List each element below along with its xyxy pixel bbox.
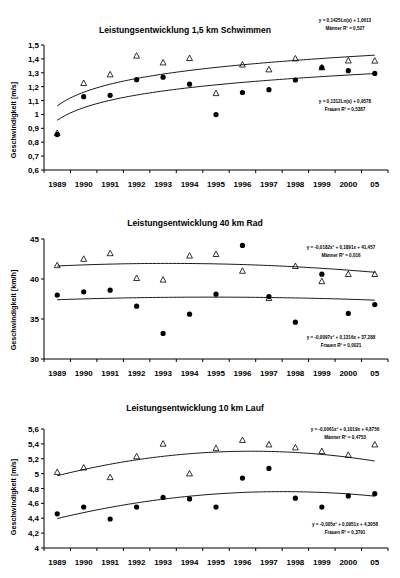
data-point-maenner bbox=[345, 57, 351, 63]
data-point-frauen bbox=[187, 496, 192, 501]
x-tick-label: 1996 bbox=[234, 369, 252, 378]
y-tick-label: 0,7 bbox=[28, 152, 40, 161]
data-point-maenner bbox=[187, 470, 193, 476]
x-tick-label: 1995 bbox=[207, 558, 225, 567]
y-tick-label: 40 bbox=[30, 275, 39, 284]
x-tick-label: 1996 bbox=[234, 558, 252, 567]
x-tick-label: 1993 bbox=[154, 558, 172, 567]
data-point-frauen bbox=[55, 292, 60, 297]
data-point-maenner bbox=[213, 445, 219, 451]
data-point-frauen bbox=[81, 94, 86, 99]
chart-lauf: Leistungsentwicklung 10 km Lauf Geschwin… bbox=[0, 387, 400, 578]
data-point-frauen bbox=[55, 132, 60, 137]
plot-area: 44,24,44,64,855,25,45,619891990199119921… bbox=[28, 425, 388, 567]
y-tick-label: 5 bbox=[35, 470, 40, 479]
data-point-maenner bbox=[266, 66, 272, 72]
data-point-frauen bbox=[240, 90, 245, 95]
data-point-maenner bbox=[160, 277, 166, 283]
data-point-maenner bbox=[107, 71, 113, 77]
x-tick-label: 1998 bbox=[286, 369, 304, 378]
annotation-maenner-line1: y = -0,0182x² + 0,1891x + 41,457 bbox=[307, 245, 376, 250]
trendline-männer bbox=[57, 451, 375, 476]
x-tick-label: 1993 bbox=[154, 180, 172, 189]
data-point-maenner bbox=[292, 263, 298, 269]
data-point-frauen bbox=[134, 504, 139, 509]
x-tick-label: 1998 bbox=[286, 180, 304, 189]
data-point-frauen bbox=[346, 68, 351, 73]
data-point-frauen bbox=[293, 496, 298, 501]
x-tick-label: 1997 bbox=[260, 180, 278, 189]
x-tick-label: 1991 bbox=[101, 180, 119, 189]
y-tick-label: 45 bbox=[30, 235, 39, 244]
data-point-frauen bbox=[160, 331, 165, 336]
data-point-frauen bbox=[372, 71, 377, 76]
data-point-frauen bbox=[187, 82, 192, 87]
chart-schwimmen: Leistungsentwicklung 1,5 km Schwimmen Ge… bbox=[0, 0, 400, 200]
trendline-frauen bbox=[57, 297, 375, 300]
data-point-maenner bbox=[319, 448, 325, 454]
data-point-frauen bbox=[213, 112, 218, 117]
data-point-frauen bbox=[372, 302, 377, 307]
data-point-maenner bbox=[372, 441, 378, 447]
y-tick-label: 1,5 bbox=[28, 41, 40, 50]
data-point-frauen bbox=[160, 495, 165, 500]
chart-lauf-svg: Leistungsentwicklung 10 km Lauf Geschwin… bbox=[0, 387, 400, 578]
x-tick-label: 1992 bbox=[128, 180, 146, 189]
data-point-maenner bbox=[240, 437, 246, 443]
data-point-frauen bbox=[346, 493, 351, 498]
data-point-maenner bbox=[345, 271, 351, 277]
y-tick-label: 4,6 bbox=[28, 499, 40, 508]
data-point-maenner bbox=[54, 469, 60, 475]
data-point-maenner bbox=[213, 90, 219, 96]
data-point-maenner bbox=[187, 55, 193, 61]
data-point-maenner bbox=[372, 58, 378, 64]
y-tick-label: 1,3 bbox=[28, 69, 40, 78]
data-point-maenner bbox=[292, 444, 298, 450]
data-point-frauen bbox=[266, 466, 271, 471]
x-tick-label: 1999 bbox=[313, 180, 331, 189]
x-tick-label: 1995 bbox=[207, 180, 225, 189]
chart-title: Leistungsentwicklung 40 km Rad bbox=[127, 218, 263, 228]
y-tick-label: 5,2 bbox=[28, 455, 40, 464]
chart-rad: Leistungsentwicklung 40 km Rad Geschwind… bbox=[0, 200, 400, 387]
data-point-frauen bbox=[266, 87, 271, 92]
data-point-frauen bbox=[266, 294, 271, 299]
data-point-maenner bbox=[160, 441, 166, 447]
data-point-maenner bbox=[213, 251, 219, 257]
x-tick-label: 1991 bbox=[101, 369, 119, 378]
annotation-frauen-line1: y = -0,0097x² + 0,1316x + 37,288 bbox=[307, 335, 376, 340]
data-point-maenner bbox=[266, 441, 272, 447]
data-point-frauen bbox=[372, 491, 377, 496]
x-tick-label: 1997 bbox=[260, 558, 278, 567]
x-tick-label: 05 bbox=[370, 180, 379, 189]
annotation-frauen-line1: y = 0,1312Ln(x) + 0,9578 bbox=[319, 99, 372, 104]
data-point-maenner bbox=[54, 262, 60, 268]
x-tick-label: 1992 bbox=[128, 369, 146, 378]
y-tick-label: 35 bbox=[30, 315, 39, 324]
data-point-maenner bbox=[81, 256, 87, 261]
x-tick-label: 1995 bbox=[207, 369, 225, 378]
y-tick-label: 0,9 bbox=[28, 124, 40, 133]
annotation-frauen-line2: Frauen R² = 0,0021 bbox=[321, 343, 362, 348]
chart-rad-svg: Leistungsentwicklung 40 km Rad Geschwind… bbox=[0, 200, 400, 387]
data-point-maenner bbox=[107, 474, 113, 480]
annotation-maenner-line1: y = 0,1425Ln(x) + 1,0613 bbox=[319, 18, 372, 23]
x-tick-label: 1994 bbox=[181, 180, 199, 189]
y-axis-label: Geschwindigkeit [m/s] bbox=[9, 459, 18, 535]
x-tick-label: 1996 bbox=[234, 180, 252, 189]
data-point-maenner bbox=[107, 250, 113, 256]
x-tick-label: 2000 bbox=[339, 369, 357, 378]
data-point-frauen bbox=[81, 504, 86, 509]
data-point-frauen bbox=[240, 475, 245, 480]
x-tick-label: 2000 bbox=[339, 180, 357, 189]
annotation-maenner-line2: Männer R² = 0,4753 bbox=[324, 435, 366, 440]
data-point-frauen bbox=[108, 516, 113, 521]
data-point-frauen bbox=[187, 312, 192, 317]
data-point-maenner bbox=[160, 59, 166, 65]
x-tick-label: 1989 bbox=[48, 558, 66, 567]
x-tick-label: 1994 bbox=[181, 369, 199, 378]
x-tick-label: 1989 bbox=[48, 180, 66, 189]
data-point-frauen bbox=[319, 504, 324, 509]
y-tick-label: 1,1 bbox=[28, 97, 40, 106]
y-tick-label: 4,4 bbox=[28, 514, 40, 523]
